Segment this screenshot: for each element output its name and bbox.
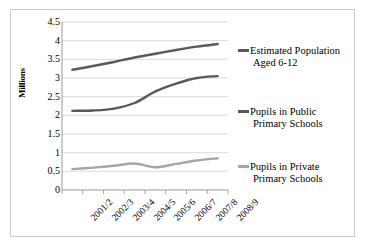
x-axis-tick-label: 2005/6 [172,197,198,223]
legend-item-public-schools: Pupils in Public Primary Schools [238,106,368,130]
legend-label-line1: Pupils in Public [250,106,317,117]
legend-label-line2: Aged 6-12 [250,57,368,69]
legend-item-private-schools: Pupils in Private Primary Schools [238,161,368,185]
x-axis-tick-label: 2001/2 [89,197,115,223]
legend-label-private-schools: Pupils in Private Primary Schools [238,161,368,185]
legend-label-line1: Estimated Population [250,45,340,56]
x-axis-tick-label: 2006/7 [193,197,219,223]
legend-label-line2: Primary Schools [250,118,368,130]
legend-swatch-estimated-population [238,49,249,52]
legend-swatch-private-schools [238,165,249,168]
x-axis-tick-label: 2007/8 [214,197,240,223]
legend-label-estimated-population: Estimated Population Aged 6-12 [238,45,368,69]
legend-label-line1: Pupils in Private [250,161,319,172]
legend-swatch-public-schools [238,110,249,113]
x-axis-tick-label: 2004/5 [151,197,177,223]
chart-figure: Millions 00.511.522.533.544.5 2001/22002… [0,0,373,249]
legend-label-public-schools: Pupils in Public Primary Schools [238,106,368,130]
x-axis-tick-label: 2003/4 [131,197,157,223]
x-axis-tick-label: 2002/3 [110,197,136,223]
legend-label-line2: Primary Schools [250,173,368,185]
legend-item-estimated-population: Estimated Population Aged 6-12 [238,45,368,69]
x-axis-tick-label: 2008/9 [234,197,260,223]
